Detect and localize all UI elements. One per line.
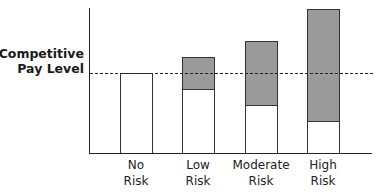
xlabel-line2: Risk bbox=[283, 173, 363, 189]
label-line-1: Competitive bbox=[0, 46, 84, 61]
x-axis bbox=[89, 153, 372, 154]
bar-moderate-risk-base bbox=[245, 105, 278, 153]
bar-no-risk-base bbox=[120, 73, 153, 153]
y-axis bbox=[89, 8, 90, 154]
label-line-2: Pay Level bbox=[0, 61, 84, 76]
competitive-pay-dashed-line bbox=[90, 73, 373, 74]
bar-high-risk-range bbox=[307, 9, 340, 122]
bar-high-risk-base bbox=[307, 121, 340, 153]
xlabel-line1: High bbox=[283, 157, 363, 173]
xlabel-high-risk: High Risk bbox=[283, 157, 363, 189]
competitive-pay-level-label: Competitive Pay Level bbox=[0, 46, 84, 76]
bar-low-risk-base bbox=[182, 89, 215, 153]
